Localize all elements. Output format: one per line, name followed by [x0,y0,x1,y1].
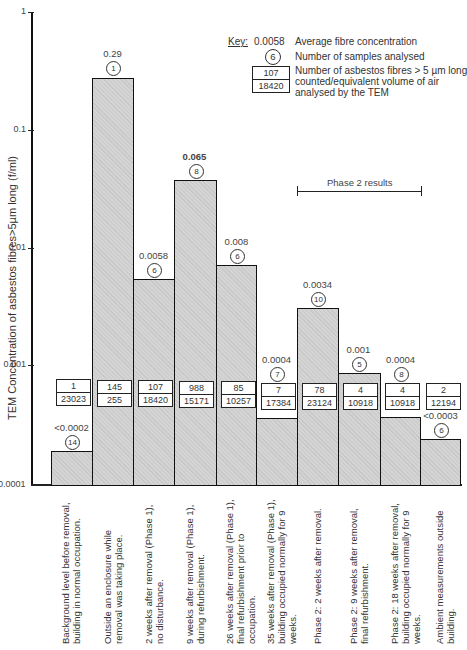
y-tick [28,365,34,366]
y-tick [28,12,34,13]
equivalent-volume: 10257 [222,395,255,407]
bar-5 [216,265,257,486]
sample-count-circle: 14 [65,435,80,450]
phase2-bracket [297,191,421,192]
key-samples-desc: Number of samples analysed [295,51,425,62]
key-box-top: 107 [253,67,289,80]
fibre-count-box: 410918 [343,383,378,410]
fibres-counted: 107 [139,381,172,394]
bar-10 [420,439,461,486]
fibres-counted: 2 [427,384,460,397]
equivalent-volume: 10918 [386,397,419,409]
bar-value-label: 0.0058 [133,250,174,261]
key-example-value: 0.0058 [254,36,285,47]
bar-6 [256,418,298,486]
sample-count-circle: 10 [311,292,326,307]
y-tick [28,248,34,249]
fibres-counted: 4 [386,384,419,397]
sample-count-circle: 8 [394,367,409,382]
y-tick-label: 1 [0,6,26,16]
bar-value-label: 0.001 [338,344,379,355]
equivalent-volume: 15171 [180,395,213,407]
fibre-count-box: 410918 [385,383,420,410]
bar-value-label: 0.065 [174,151,215,162]
key-box-desc-3: analysed by the TEM [295,87,389,98]
fibres-counted: 78 [303,384,336,397]
sample-count-circle: 5 [352,357,367,372]
key-value-desc: Average fibre concentration [295,36,417,47]
fibre-count-box: 8510257 [221,381,256,408]
bar-9 [380,417,421,486]
fibre-count-box: 212194 [426,383,461,410]
sample-count-circle: 8 [189,164,204,179]
phase2-bracket-cap [297,186,298,196]
sample-count-circle: 7 [270,367,285,382]
sample-count-circle: 6 [230,249,245,264]
phase2-bracket-cap [421,186,422,196]
y-tick [28,130,34,131]
key-label: Key: [228,36,248,47]
equivalent-volume: 12194 [427,397,460,409]
sample-count-circle: 6 [434,423,449,438]
fibres-counted: 4 [344,384,377,397]
y-tick-label: 0.1 [0,124,26,134]
sample-count-circle: 1 [106,61,121,76]
bar-value-label: 0.0004 [380,354,421,365]
bar-1 [51,451,93,486]
bar-value-label: <0.0003 [420,410,461,421]
fibre-count-box: 10718420 [138,380,173,407]
bar-2 [92,78,134,486]
bar-value-label: 0.008 [216,236,257,247]
fibre-count-box: 717384 [261,383,296,410]
key-box-bottom: 18420 [253,80,289,92]
equivalent-volume: 18420 [139,394,172,406]
y-tick-label: 0.0001 [0,479,24,489]
fibres-counted: 85 [222,382,255,395]
fibre-count-box: 145255 [97,380,132,407]
equivalent-volume: 10918 [344,397,377,409]
equivalent-volume: 17384 [262,397,295,409]
y-axis-title-text: TEM Concentration of asbestos fibres>5µm… [6,156,18,420]
phase2-label: Phase 2 results [327,177,392,188]
equivalent-volume: 23124 [303,397,336,409]
key-box-desc-1: Number of asbestos fibres > 5 µm long [295,65,467,76]
bar-value-label: <0.0002 [51,422,92,433]
fibre-count-box: 123023 [56,379,91,406]
fibre-count-box: 98815171 [179,381,214,408]
fibres-counted: 145 [98,381,131,394]
key-box-desc-2: counted/equivalent volume of air [295,76,439,87]
equivalent-volume: 23023 [57,393,90,405]
fibres-counted: 1 [57,380,90,393]
bar-value-label: 0.0004 [256,354,297,365]
sample-count-circle: 6 [147,263,162,278]
key-samples-circle: 6 [265,49,281,65]
fibres-counted: 7 [262,384,295,397]
equivalent-volume: 255 [98,394,131,406]
fibres-counted: 988 [180,382,213,395]
fibre-count-box: 7823124 [302,383,337,410]
bar-value-label: 0.29 [92,48,133,59]
bar-4 [174,180,217,486]
bar-value-label: 0.0034 [297,279,338,290]
